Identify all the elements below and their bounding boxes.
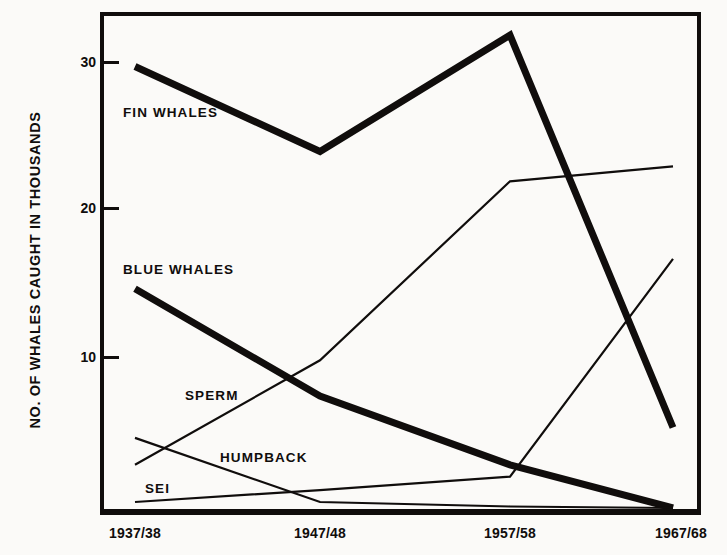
series-line-fin-whales — [135, 35, 673, 427]
axis-frame — [100, 12, 701, 515]
y-tick-marks — [104, 61, 119, 359]
whale-catch-line-chart: NO. OF WHALES CAUGHT IN THOUSANDS 30 20 … — [0, 0, 727, 555]
series-line-blue-whales — [135, 289, 673, 508]
plot-area — [0, 0, 727, 555]
series-line-sperm — [135, 166, 673, 464]
series-paths — [135, 35, 673, 508]
